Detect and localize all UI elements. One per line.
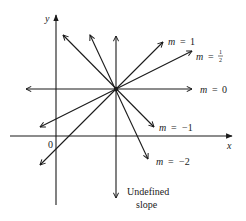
svg-text:=: = xyxy=(168,156,174,167)
y-axis-label: y xyxy=(44,13,50,24)
svg-text:1: 1 xyxy=(219,49,222,55)
label-m-neg1: m = −1 xyxy=(159,122,193,133)
label-m0: m = 0 xyxy=(200,84,227,95)
center-point xyxy=(114,87,118,91)
label-m-neg2: m = −2 xyxy=(156,156,190,167)
svg-text:m: m xyxy=(159,122,166,133)
svg-text:=: = xyxy=(180,36,186,47)
origin-label: 0 xyxy=(48,139,53,150)
label-m-half: m = 1 2 xyxy=(196,49,223,63)
svg-text:m: m xyxy=(200,84,207,95)
svg-text:1: 1 xyxy=(190,36,195,47)
svg-text:=: = xyxy=(171,122,177,133)
slope-diagram: y x 0 m = 1 m = 1 2 m = 0 m = −1 m = −2 … xyxy=(0,0,246,221)
line-m-neg1 xyxy=(63,35,154,127)
svg-text:=: = xyxy=(212,84,218,95)
svg-text:2: 2 xyxy=(219,57,222,63)
svg-text:=: = xyxy=(208,51,214,62)
svg-text:m: m xyxy=(168,36,175,47)
svg-text:m: m xyxy=(196,51,203,62)
undefined-slope-label-line2: slope xyxy=(136,199,158,210)
undefined-slope-label-line1: Undefined xyxy=(127,186,169,197)
x-axis-label: x xyxy=(226,140,232,151)
svg-text:m: m xyxy=(156,156,163,167)
label-m1: m = 1 xyxy=(168,36,195,47)
svg-text:−1: −1 xyxy=(182,122,193,133)
svg-text:−2: −2 xyxy=(179,156,190,167)
line-m-neg2 xyxy=(90,35,148,159)
svg-text:0: 0 xyxy=(222,84,227,95)
